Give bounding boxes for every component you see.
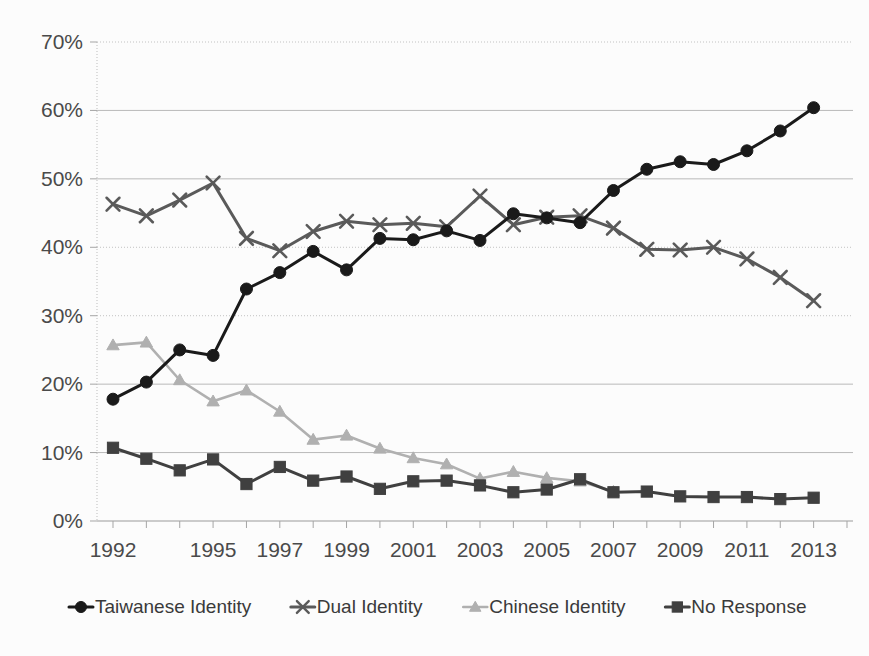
y-tick-label-10: 10% xyxy=(41,441,83,464)
data-point-marker-square xyxy=(641,486,652,497)
y-tick-label-70: 70% xyxy=(41,30,83,53)
data-point-marker-square xyxy=(608,487,619,498)
data-point-marker-square xyxy=(708,491,719,502)
data-point-marker-circle xyxy=(774,125,786,137)
y-tick-label-60: 60% xyxy=(41,98,83,121)
data-point-marker-circle xyxy=(140,376,152,388)
data-point-marker-circle xyxy=(407,234,419,246)
chart-container: 0%10%20%30%40%50%60%70% 1992199519971999… xyxy=(0,0,869,656)
data-point-marker-square xyxy=(508,487,519,498)
data-point-marker-square xyxy=(675,491,686,502)
y-tick-label-30: 30% xyxy=(41,304,83,327)
data-point-marker-circle xyxy=(240,283,252,295)
data-point-marker-cross xyxy=(807,294,820,307)
data-point-marker-circle xyxy=(474,234,486,246)
x-axis-tickmarks xyxy=(113,521,847,528)
line-chart: 0%10%20%30%40%50%60%70% 1992199519971999… xyxy=(0,0,869,656)
data-series-layer xyxy=(107,102,820,505)
legend-label: Dual Identity xyxy=(317,596,423,617)
data-point-marker-square xyxy=(574,474,585,485)
series-no-response xyxy=(107,442,819,505)
legend-label: Taiwanese Identity xyxy=(95,596,252,617)
x-axis-tick-labels: 1992199519971999200120032005200720092011… xyxy=(90,538,837,561)
x-tick-label-2011: 2011 xyxy=(724,538,769,561)
x-tick-label-2005: 2005 xyxy=(523,538,570,561)
data-point-marker-circle xyxy=(75,601,86,612)
gridlines-group xyxy=(97,42,853,453)
x-tick-label-2009: 2009 xyxy=(657,538,704,561)
data-point-marker-circle xyxy=(708,158,720,170)
data-point-marker-square xyxy=(541,484,552,495)
data-point-marker-triangle xyxy=(340,429,352,440)
x-tick-label-2013: 2013 xyxy=(790,538,837,561)
chart-legend: Taiwanese IdentityDual IdentityChinese I… xyxy=(69,596,806,617)
series-dual-identity xyxy=(107,177,820,307)
data-point-marker-triangle xyxy=(507,466,519,477)
data-point-marker-triangle xyxy=(274,405,286,416)
legend-label: Chinese Identity xyxy=(489,596,626,617)
data-point-marker-circle xyxy=(107,393,119,405)
y-tick-label-50: 50% xyxy=(41,167,83,190)
x-tick-label-1997: 1997 xyxy=(256,538,303,561)
data-point-marker-square xyxy=(207,454,218,465)
y-tick-label-40: 40% xyxy=(41,235,83,258)
data-point-marker-cross xyxy=(273,244,286,257)
data-point-marker-circle xyxy=(341,264,353,276)
data-point-marker-circle xyxy=(641,163,653,175)
data-point-marker-cross xyxy=(474,190,487,203)
data-point-marker-triangle xyxy=(240,384,252,395)
legend-item-no-response[interactable]: No Response xyxy=(665,596,806,617)
data-point-marker-square xyxy=(808,492,819,503)
data-point-marker-cross xyxy=(173,194,186,207)
x-tick-label-2001: 2001 xyxy=(390,538,437,561)
data-point-marker-square xyxy=(408,476,419,487)
y-axis-tick-labels: 0%10%20%30%40%50%60%70% xyxy=(41,30,97,532)
data-point-marker-square xyxy=(441,475,452,486)
data-point-marker-cross xyxy=(774,271,787,284)
legend-item-chinese-identity[interactable]: Chinese Identity xyxy=(463,596,626,617)
data-point-marker-circle xyxy=(808,102,820,114)
x-tick-label-2007: 2007 xyxy=(590,538,637,561)
data-point-marker-circle xyxy=(674,156,686,168)
data-point-marker-circle xyxy=(607,184,619,196)
axes-group xyxy=(97,42,853,521)
legend-item-dual-identity[interactable]: Dual Identity xyxy=(291,596,423,617)
data-point-marker-square xyxy=(741,491,752,502)
data-point-marker-square xyxy=(474,480,485,491)
data-point-marker-circle xyxy=(541,212,553,224)
data-point-marker-circle xyxy=(307,245,319,257)
data-point-marker-circle xyxy=(174,344,186,356)
data-point-marker-cross xyxy=(240,232,253,245)
data-point-marker-square xyxy=(374,483,385,494)
data-point-marker-circle xyxy=(441,225,453,237)
x-tick-label-1995: 1995 xyxy=(190,538,237,561)
data-point-marker-circle xyxy=(274,267,286,279)
data-point-marker-cross xyxy=(607,222,620,235)
data-point-marker-circle xyxy=(574,217,586,229)
data-point-marker-square xyxy=(241,478,252,489)
x-tick-label-1992: 1992 xyxy=(90,538,137,561)
legend-label: No Response xyxy=(691,596,806,617)
legend-item-taiwanese-identity[interactable]: Taiwanese Identity xyxy=(69,596,252,617)
data-point-marker-square xyxy=(107,442,118,453)
y-tick-label-0: 0% xyxy=(53,509,83,532)
data-point-marker-square xyxy=(141,453,152,464)
data-point-marker-square xyxy=(672,602,682,612)
x-tick-label-2003: 2003 xyxy=(457,538,504,561)
data-point-marker-circle xyxy=(207,349,219,361)
data-point-marker-square xyxy=(775,494,786,505)
data-point-marker-square xyxy=(341,471,352,482)
data-point-marker-circle xyxy=(374,232,386,244)
data-point-marker-square xyxy=(308,475,319,486)
data-point-marker-square xyxy=(274,461,285,472)
data-point-marker-circle xyxy=(741,145,753,157)
data-point-marker-square xyxy=(174,465,185,476)
data-point-marker-circle xyxy=(507,208,519,220)
series-taiwanese-identity xyxy=(107,102,820,406)
y-tick-label-20: 20% xyxy=(41,372,83,395)
x-tick-label-1999: 1999 xyxy=(323,538,370,561)
